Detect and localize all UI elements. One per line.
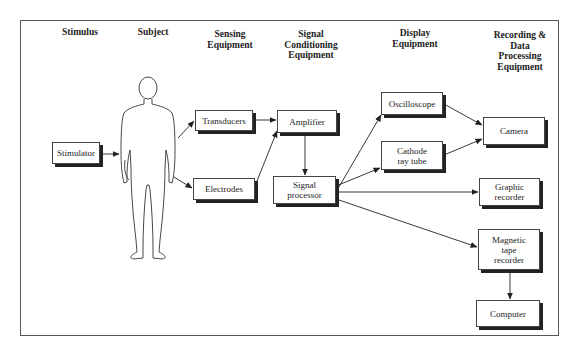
connector-layer — [0, 0, 577, 348]
human-figure-icon — [121, 77, 175, 259]
node-stimulator: Stimulator — [52, 142, 100, 164]
node-graphic-recorder: Graphic recorder — [479, 178, 540, 206]
node-camera: Camera — [483, 117, 545, 145]
node-electrodes: Electrodes — [193, 178, 255, 200]
node-computer: Computer — [476, 300, 540, 327]
node-oscilloscope: Oscilloscope — [381, 92, 443, 115]
node-signal-processor: Signal processor — [273, 176, 336, 204]
node-magnetic-tape-recorder: Magnetic tape recorder — [478, 229, 540, 270]
node-cathode-ray-tube: Cathode ray tube — [381, 141, 443, 170]
node-amplifier: Amplifier — [277, 110, 337, 133]
node-transducers: Transducers — [195, 110, 253, 131]
